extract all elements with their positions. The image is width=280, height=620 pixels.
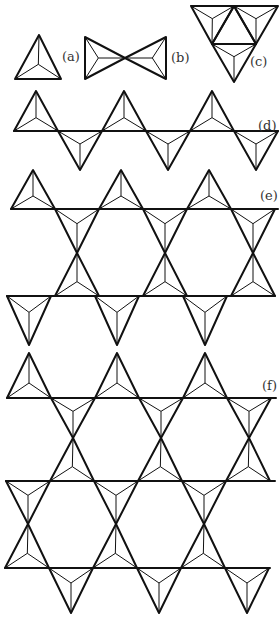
- tetrahedron-f: [49, 568, 93, 613]
- tetrahedron-b: [85, 37, 125, 79]
- panel-label-c: (c): [250, 55, 267, 68]
- tetrahedron-f: [50, 438, 94, 481]
- tetrahedron-f: [6, 481, 50, 524]
- tetrahedron-c: [234, 6, 278, 44]
- tetrahedron-e: [7, 296, 51, 345]
- tetrahedron-e: [183, 296, 227, 345]
- panel-label-f: (f): [262, 379, 277, 392]
- tetrahedron-f: [139, 398, 183, 438]
- tetrahedron-d-up: [14, 91, 58, 131]
- panel-label-b: (b): [171, 51, 189, 64]
- tetrahedron-e: [55, 209, 99, 253]
- tetrahedron-e: [99, 170, 143, 209]
- tetrahedron-f: [226, 438, 270, 481]
- tetrahedron-f: [5, 524, 49, 568]
- tetrahedron-a: [15, 35, 61, 79]
- tetrahedron-d-up: [190, 91, 234, 131]
- tetrahedron-f: [181, 524, 225, 568]
- panel-label-e: (e): [260, 189, 278, 202]
- tetrahedron-f: [138, 438, 182, 481]
- tetrahedron-d-down: [234, 131, 278, 170]
- tetrahedra-diagram: (a) (b) (c) (d) (e) (f): [0, 0, 280, 620]
- tetrahedron-f: [227, 398, 271, 438]
- panel-label-d: (d): [258, 119, 276, 132]
- tetrahedron-d-down: [146, 131, 190, 170]
- tetrahedron-f: [225, 568, 269, 613]
- tetrahedron-f: [94, 481, 138, 524]
- tetrahedron-f: [182, 481, 226, 524]
- tetrahedra-figure: [0, 0, 280, 620]
- tetrahedron-e: [95, 296, 139, 345]
- tetrahedron-e: [11, 170, 55, 209]
- tetrahedron-e: [231, 209, 275, 253]
- tetrahedron-e: [55, 253, 99, 296]
- tetrahedron-e: [231, 253, 275, 296]
- tetrahedron-c: [191, 6, 234, 44]
- tetrahedron-b: [125, 37, 166, 79]
- tetrahedron-f: [95, 353, 139, 398]
- tetrahedron-d-down: [58, 131, 102, 170]
- tetrahedron-f: [183, 353, 227, 398]
- tetrahedron-f: [51, 398, 95, 438]
- tetrahedron-e: [143, 253, 187, 296]
- panel-label-a: (a): [62, 50, 80, 63]
- tetrahedron-e: [143, 209, 187, 253]
- tetrahedron-f: [137, 568, 181, 613]
- tetrahedron-f: [7, 353, 51, 398]
- tetrahedron-f: [93, 524, 137, 568]
- tetrahedron-e: [187, 170, 231, 209]
- tetrahedron-d-up: [102, 91, 146, 131]
